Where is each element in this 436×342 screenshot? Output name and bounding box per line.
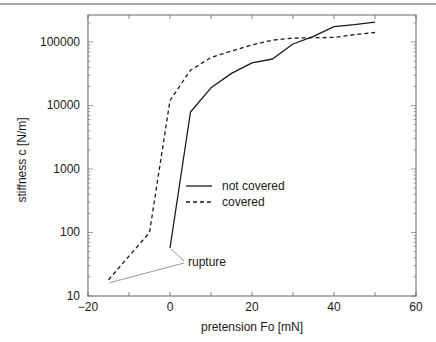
x-tick-label: 0 [167, 300, 174, 314]
y-tick-label: 100000 [40, 35, 80, 49]
chart: −200204060 10100100010000100000 rupture … [0, 0, 436, 342]
plot-frame [88, 15, 416, 296]
y-axis-label: stiffness c [N/m] [15, 117, 29, 202]
y-tick-labels: 10100100010000100000 [40, 35, 80, 303]
y-tick-label: 100 [60, 225, 80, 239]
series-not-covered [170, 22, 375, 248]
x-tick-label: 20 [245, 300, 259, 314]
series-lines [109, 22, 376, 280]
y-tick-label: 1000 [53, 162, 80, 176]
axis-ticks [88, 15, 416, 296]
series-covered [109, 33, 376, 280]
y-tick-label: 10000 [47, 98, 81, 112]
rupture-annotation: rupture [110, 249, 227, 283]
legend-label-covered: covered [222, 195, 265, 209]
x-tick-label: 40 [327, 300, 341, 314]
legend-label-not-covered: not covered [222, 179, 285, 193]
x-axis-label: pretension Fo [mN] [201, 320, 303, 334]
x-tick-label: 60 [409, 300, 423, 314]
annotation-pointer-solid [171, 249, 184, 261]
y-tick-label: 10 [67, 289, 81, 303]
annotation-rupture-label: rupture [188, 255, 226, 269]
x-tick-labels: −200204060 [78, 300, 423, 314]
legend: not covered covered [186, 179, 285, 209]
annotation-pointer-dashed [110, 263, 185, 283]
x-tick-label: −20 [78, 300, 99, 314]
